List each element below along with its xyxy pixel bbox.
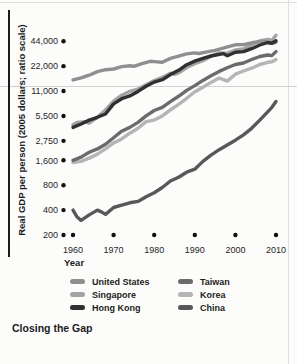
y-tick-label-800: 800 <box>43 180 58 190</box>
legend-swatch-united-states <box>70 279 85 285</box>
line-singapore <box>73 35 276 125</box>
legend-item-hong-kong: Hong Kong <box>70 303 178 313</box>
x-tick-label-1960: 1960 <box>63 245 83 255</box>
legend-item-singapore: Singapore <box>70 290 178 300</box>
legend-swatch-taiwan <box>178 279 193 285</box>
legend-item-taiwan: Taiwan <box>178 277 230 287</box>
line-china <box>73 102 276 221</box>
x-tick-dot-2000 <box>233 233 237 237</box>
legend-swatch-singapore <box>70 292 85 298</box>
legend-label-hong-kong: Hong Kong <box>92 303 141 313</box>
y-tick-label-200: 200 <box>43 230 58 240</box>
y-tick-dot-1,600 <box>61 158 65 162</box>
x-tick-label-1990: 1990 <box>185 245 205 255</box>
x-tick-dot-2010 <box>274 233 278 237</box>
y-tick-dot-2,750 <box>61 139 65 143</box>
legend-item-china: China <box>178 303 230 313</box>
legend-label-china: China <box>200 303 225 313</box>
legend-label-singapore: Singapore <box>92 290 136 300</box>
legend-item-korea: Korea <box>178 290 230 300</box>
y-tick-dot-400 <box>61 208 65 212</box>
y-tick-label-400: 400 <box>43 205 58 215</box>
x-tick-label-1970: 1970 <box>104 245 124 255</box>
figure: Real GDP per person (2005 dollars; ratio… <box>0 0 297 364</box>
x-tick-dot-1990 <box>193 233 197 237</box>
x-tick-label-1980: 1980 <box>144 245 164 255</box>
x-tick-dot-1980 <box>152 233 156 237</box>
legend: United States Singapore Hong Kong Taiwan… <box>70 275 230 314</box>
y-tick-label-22,000: 22,000 <box>30 61 58 71</box>
legend-item-united-states: United States <box>70 277 178 287</box>
x-tick-dot-1970 <box>111 233 115 237</box>
legend-label-korea: Korea <box>200 290 226 300</box>
y-tick-label-2,750: 2,750 <box>35 136 58 146</box>
figure-caption: Closing the Gap <box>12 322 93 334</box>
x-axis-title: Year <box>64 257 84 268</box>
x-tick-label-2010: 2010 <box>266 245 286 255</box>
legend-swatch-hong-kong <box>70 305 85 311</box>
y-tick-dot-5,500 <box>61 114 65 118</box>
legend-label-united-states: United States <box>92 277 150 287</box>
x-tick-dot-1960 <box>71 233 75 237</box>
y-tick-dot-200 <box>61 233 65 237</box>
legend-swatch-china <box>178 305 193 311</box>
line-hong-kong <box>73 41 276 128</box>
y-tick-dot-800 <box>61 183 65 187</box>
x-tick-label-2000: 2000 <box>225 245 245 255</box>
y-tick-label-11,000: 11,000 <box>31 86 58 96</box>
legend-label-taiwan: Taiwan <box>200 277 230 287</box>
legend-swatch-korea <box>178 292 193 298</box>
y-tick-label-1,600: 1,600 <box>35 156 58 166</box>
y-tick-dot-44,000 <box>61 39 65 43</box>
y-tick-dot-11,000 <box>61 89 65 93</box>
y-tick-label-5,500: 5,500 <box>35 111 58 121</box>
y-tick-label-44,000: 44,000 <box>30 36 58 46</box>
y-tick-dot-22,000 <box>61 64 65 68</box>
